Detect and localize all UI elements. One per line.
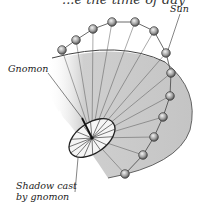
sundial-illustration bbox=[0, 0, 203, 205]
shadow-label: Shadow cast by gnomon bbox=[16, 180, 77, 202]
shadow-label-line2: by gnomon bbox=[16, 191, 77, 202]
sun-label: Sun bbox=[170, 3, 189, 14]
gnomon-label: Gnomon bbox=[8, 63, 48, 74]
sundial-diagram: ...e the time of day Sun Gnomon Shadow c… bbox=[0, 0, 203, 205]
shadow-label-line1: Shadow cast bbox=[16, 180, 77, 191]
header-text: ...e the time of day bbox=[62, 0, 185, 7]
